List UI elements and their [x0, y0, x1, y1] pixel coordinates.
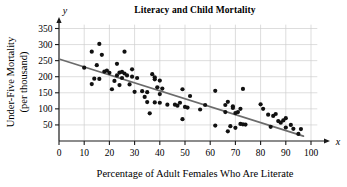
data-point — [158, 101, 162, 105]
data-point — [97, 77, 101, 81]
data-point — [269, 125, 273, 129]
y-axis-title-line2: (per thousand) — [18, 51, 30, 112]
data-point — [112, 79, 116, 83]
data-point — [115, 62, 119, 66]
data-point — [130, 67, 134, 71]
data-point — [158, 78, 162, 82]
x-tick-label: 80 — [256, 148, 266, 158]
data-point — [231, 104, 235, 108]
chart-title: Literacy and Child Mortality — [134, 5, 255, 15]
data-point — [259, 102, 263, 106]
data-point — [241, 87, 245, 91]
x-tick-label: 90 — [281, 148, 291, 158]
data-point — [125, 73, 129, 77]
data-point — [299, 127, 303, 131]
data-point — [133, 90, 137, 94]
y-tick-label: 50 — [43, 120, 53, 130]
x-tick-label: 50 — [180, 148, 190, 158]
data-point — [117, 83, 121, 87]
data-point — [213, 123, 217, 127]
data-point — [95, 63, 99, 67]
data-point — [158, 92, 162, 96]
y-tick-label: 250 — [38, 56, 53, 66]
data-point — [198, 107, 202, 111]
data-point — [228, 124, 232, 128]
y-axis-title-line1: Under-Five Mortality — [5, 36, 16, 127]
data-point — [223, 110, 227, 114]
data-point — [289, 123, 293, 127]
scatter-plot-svg: Literacy and Child Mortality 50100150200… — [0, 0, 347, 187]
x-tick-label: 10 — [79, 148, 89, 158]
data-point — [92, 77, 96, 81]
y-tick-label: 100 — [38, 104, 53, 114]
y-tick-label: 300 — [38, 40, 53, 50]
y-tick-label: 150 — [38, 88, 53, 98]
x-tick-label: 0 — [57, 148, 62, 158]
data-point — [243, 123, 247, 127]
data-point — [284, 125, 288, 129]
data-point — [178, 101, 182, 105]
data-point — [97, 42, 101, 46]
data-point — [145, 100, 149, 104]
data-point — [100, 53, 104, 57]
data-point — [238, 107, 242, 111]
data-point — [140, 89, 144, 93]
data-point — [90, 82, 94, 86]
data-point — [155, 85, 159, 89]
y-tick-label: 200 — [38, 72, 53, 82]
data-point — [291, 127, 295, 131]
data-point — [226, 100, 230, 104]
data-point — [153, 77, 157, 81]
data-point — [203, 103, 207, 107]
data-point — [233, 126, 237, 130]
x-tick-label: 40 — [155, 148, 165, 158]
data-point — [120, 76, 124, 80]
data-point — [90, 50, 94, 54]
y-axis-name-label: y — [62, 5, 68, 16]
x-tick-label: 30 — [130, 148, 140, 158]
x-axis-name-label: x — [335, 136, 341, 147]
data-point — [266, 113, 270, 117]
y-tick-label: 350 — [38, 24, 53, 34]
data-point — [145, 90, 149, 94]
data-point — [82, 66, 86, 70]
data-point — [135, 76, 139, 80]
data-point — [180, 87, 184, 91]
data-point — [226, 129, 230, 133]
data-point — [180, 117, 184, 121]
data-point — [127, 82, 131, 86]
data-point — [122, 50, 126, 54]
data-point — [274, 112, 278, 116]
data-point — [130, 75, 134, 79]
data-point — [160, 87, 164, 91]
data-point — [185, 105, 189, 109]
literacy-child-mortality-chart: Literacy and Child Mortality 50100150200… — [0, 0, 347, 187]
data-point — [188, 94, 192, 98]
data-point — [165, 103, 169, 107]
data-point — [213, 89, 217, 93]
data-point — [296, 132, 300, 136]
x-tick-label: 100 — [304, 148, 319, 158]
data-point — [143, 95, 147, 99]
data-point — [153, 100, 157, 104]
data-point — [284, 116, 288, 120]
data-point — [110, 87, 114, 91]
data-point — [148, 111, 152, 115]
x-tick-label: 20 — [105, 148, 115, 158]
x-tick-label: 70 — [231, 148, 241, 158]
data-point — [261, 107, 265, 111]
x-tick-label: 60 — [205, 148, 215, 158]
x-axis-title: Percentage of Adult Females Who Are Lite… — [97, 168, 294, 179]
data-point — [107, 71, 111, 75]
